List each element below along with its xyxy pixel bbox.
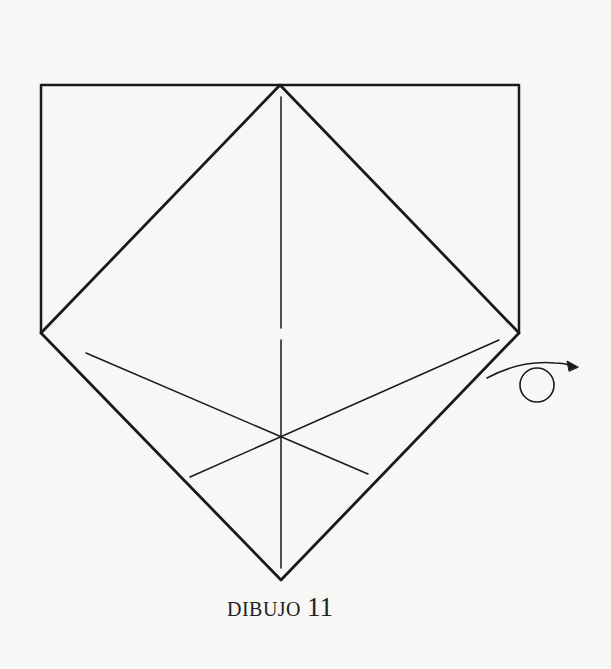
diamond-outline <box>41 85 519 580</box>
figure-caption: DIBUJO11 <box>0 592 560 623</box>
origami-diagram <box>0 0 611 669</box>
diagonal-crease-right <box>190 340 499 477</box>
caption-number: 11 <box>307 592 333 622</box>
caption-word: DIBUJO <box>227 598 301 620</box>
turn-over-icon <box>487 361 578 402</box>
outer-outline <box>41 85 519 333</box>
diagonal-crease-left <box>86 353 368 474</box>
